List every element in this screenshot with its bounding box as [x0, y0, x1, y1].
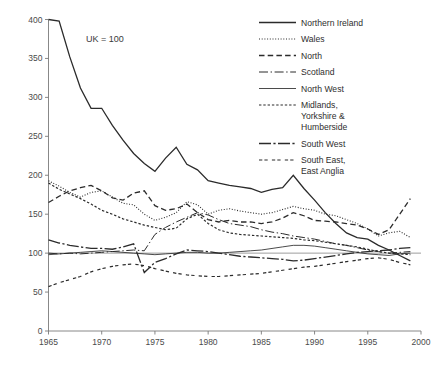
legend-label[interactable]: Yorkshire &	[301, 111, 345, 121]
y-tick-label: 400	[28, 15, 42, 25]
x-tick-label: 1995	[358, 337, 377, 347]
y-tick-label: 300	[28, 92, 42, 102]
legend-label[interactable]: South West	[301, 139, 346, 149]
line-chart: 050100150200250300350400 196519701975198…	[0, 0, 433, 366]
legend-label[interactable]: South East,	[301, 155, 345, 165]
x-tick-label: 1970	[92, 337, 111, 347]
legend-label[interactable]: Scotland	[301, 67, 335, 77]
uk-equals-100-annotation: UK = 100	[86, 34, 124, 44]
x-tick-label: 1965	[39, 337, 58, 347]
legend-label[interactable]: Northern Ireland	[301, 18, 363, 28]
y-tick-label: 50	[33, 287, 43, 297]
x-tick-label: 1980	[199, 337, 218, 347]
legend-label[interactable]: East Anglia	[301, 166, 344, 176]
legend-label[interactable]: North West	[301, 84, 344, 94]
x-tick-label: 1985	[252, 337, 271, 347]
y-tick-label: 250	[28, 131, 42, 141]
legend-label[interactable]: Humberside	[301, 122, 348, 132]
x-tick-label: 2000	[412, 337, 431, 347]
y-tick-label: 0	[38, 326, 43, 336]
y-tick-label: 150	[28, 209, 42, 219]
chart-container: 050100150200250300350400 196519701975198…	[0, 0, 433, 366]
legend-label[interactable]: Midlands,	[301, 100, 338, 110]
x-tick-label: 1990	[305, 337, 324, 347]
y-tick-label: 100	[28, 248, 42, 258]
y-tick-label: 200	[28, 170, 42, 180]
legend-label[interactable]: Wales	[301, 34, 325, 44]
legend-label[interactable]: North	[301, 51, 322, 61]
y-tick-label: 350	[28, 53, 42, 63]
x-tick-label: 1975	[145, 337, 164, 347]
